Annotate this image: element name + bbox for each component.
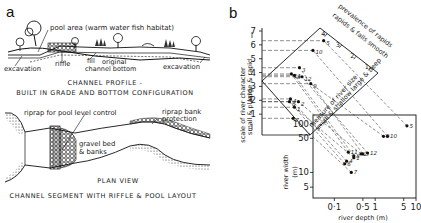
width-axis-unit: (m) (291, 166, 299, 177)
scale-point (290, 72, 293, 75)
width-depth-point (350, 171, 353, 174)
scale-point (291, 117, 294, 120)
scale-point (297, 100, 300, 103)
width-depth-point (347, 151, 350, 154)
water-surface-line (8, 46, 210, 55)
riprap-weir (50, 126, 60, 169)
profile-caption-line1: CHANNEL PROFILE - (68, 79, 143, 87)
label-riprap-pool: riprap for pool level control (24, 109, 117, 117)
scale-point-label: 1 (297, 106, 301, 112)
scale-tick-label: 1 (251, 109, 256, 119)
depth-axis-ticks: 0·10·51510 (328, 198, 421, 212)
tree-icon (192, 37, 201, 52)
width-depth-point-label: 1 (356, 155, 360, 161)
scale-tick-label: 5 (251, 54, 256, 64)
depth-axis-label: river depth (m) (338, 214, 387, 222)
bush-icon (142, 44, 154, 47)
width-tick-label: 50 (298, 133, 309, 143)
size-axis-sublabel: small & shallow large & deep (314, 56, 383, 132)
width-depth-point (352, 156, 355, 159)
profile-caption-line2: BUILT IN GRADE AND BOTTOM CONFIGURATION (16, 89, 194, 97)
scale-point-label: 3 (302, 67, 306, 73)
width-tick-label: 10 (298, 167, 309, 177)
rapids-tick-label: 2 (350, 52, 354, 60)
scale-point-label: 9 (313, 83, 317, 89)
depth-tick-label: 10 (411, 202, 421, 212)
panel-a-letter: a (6, 3, 15, 20)
width-depth-point (405, 124, 408, 127)
width-depth-point-label: 7 (354, 169, 358, 175)
width-depth-point-label: 12 (370, 150, 377, 156)
tree-icon (164, 39, 175, 47)
tree-icon (25, 21, 41, 46)
label-channel-bottom: channel bottom (85, 65, 136, 73)
width-depth-point-label: 5 (409, 123, 413, 129)
bank-stipple (5, 162, 25, 182)
scale-point (298, 66, 301, 69)
scale-point-label: 12 (304, 76, 311, 82)
tree-icon (95, 38, 106, 46)
width-depth-point-label: 2 (364, 151, 368, 157)
gravel-bed (60, 128, 76, 168)
depth-tick-label: 0·1 (328, 202, 342, 212)
width-depth-point-label: 10 (390, 133, 397, 139)
width-tick-label: 5 (304, 182, 309, 192)
scale-tick-label: 2 (251, 95, 256, 105)
width-depth-point-label: 9 (386, 133, 390, 139)
width-depth-point-label: 6 (347, 161, 351, 167)
scale-point-label: 6 (292, 101, 296, 107)
rapids-tick-label: 3 (336, 41, 340, 49)
width-depth-point (382, 135, 385, 138)
label-excavation-right: excavation (163, 63, 200, 71)
width-axis-ticks: 51050100 (293, 119, 313, 193)
width-depth-point (343, 162, 346, 165)
plan-caption: CHANNEL SEGMENT WITH RIFFLE & POOL LAYOU… (10, 192, 197, 200)
figure-canvas: a (0, 0, 421, 223)
plan-view-title: PLAN VIEW (97, 177, 138, 185)
scale-axis-ticks: 1234567 (251, 26, 262, 119)
scale-point-label: 8 (297, 74, 301, 80)
scale-point (309, 82, 312, 85)
label-gravel-1: gravel bed (79, 140, 115, 148)
rapids-tick-label: 4 (321, 30, 325, 38)
scale-tick-label: 6 (251, 40, 256, 50)
label-excavation-left: excavation (4, 65, 41, 73)
panel-a: a (4, 3, 210, 200)
scale-tick-label: 3 (251, 81, 256, 91)
scale-point (288, 100, 291, 103)
scale-point (322, 39, 325, 42)
panel-b-letter: b (229, 4, 237, 21)
bank-stipple (130, 144, 210, 170)
scale-point-label: 7 (296, 117, 300, 123)
scale-tick-label: 4 (251, 68, 256, 78)
scale-point-label: 2 (301, 101, 305, 107)
label-riprap-bank-2: protection (162, 115, 197, 123)
label-riffle: riffle (55, 60, 70, 68)
scale-point-label: 5 (326, 40, 330, 46)
depth-tick-label: 0·5 (356, 202, 370, 212)
scale-point (311, 49, 314, 52)
tree-icon (114, 34, 123, 49)
label-gravel-2: & banks (79, 148, 107, 156)
width-depth-point (359, 152, 362, 155)
panel-b: b scale of river character large & rapid… (229, 2, 421, 222)
scale-tick-label: 7 (251, 26, 256, 36)
scale-point-label: 10 (315, 49, 322, 55)
scale-point (293, 74, 296, 77)
label-pool-area: pool area (warm water fish habitat) (50, 24, 174, 32)
size-axis-label: measure of river size (308, 73, 360, 129)
width-axis-label: river width (282, 155, 290, 190)
depth-tick-label: 5 (401, 202, 406, 212)
label-fill: fill (87, 57, 95, 65)
depth-tick-label: 1 (372, 202, 377, 212)
riffle-gravel (48, 43, 76, 52)
